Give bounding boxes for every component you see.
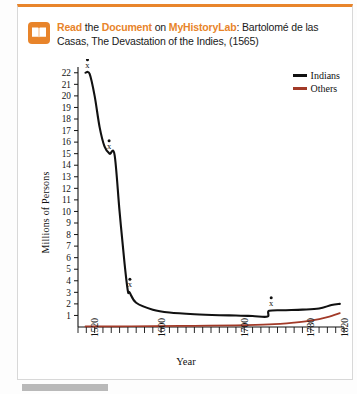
read-link[interactable]: Read [57, 21, 82, 33]
chart-area: Millions of Persons Year Indians Others … [18, 59, 354, 379]
y-tick-label: 20 [62, 91, 72, 101]
legend-item-indians: Indians [293, 69, 340, 82]
annotation-marker: x [85, 59, 90, 70]
y-tick-label: 22 [62, 68, 72, 78]
book-icon [28, 22, 50, 44]
x-tick-label: 1700 [240, 318, 250, 337]
myhistorylab-link[interactable]: MyHistoryLab [169, 21, 237, 33]
y-tick-label: 16 [62, 137, 72, 147]
y-tick-label: 11 [62, 195, 71, 205]
y-tick-label: 19 [62, 103, 72, 113]
y-tick-label: 18 [62, 114, 72, 124]
y-tick-label: 8 [66, 230, 71, 240]
chart-legend: Indians Others [293, 69, 340, 95]
y-tick-label: 4 [66, 276, 71, 286]
annotation-label: x [85, 60, 90, 70]
y-tick-label: 12 [62, 184, 72, 194]
legend-swatch-indians [293, 74, 307, 77]
y-tick-label: 15 [62, 149, 72, 159]
annotation-marker: x [269, 296, 274, 308]
y-tick-label: 5 [66, 264, 71, 274]
annotation-marker: x [107, 139, 112, 151]
legend-item-others: Others [293, 82, 340, 95]
y-tick-label: 6 [66, 253, 71, 263]
x-tick-label: 1780 [306, 318, 316, 337]
y-axis-label: Millions of Persons [40, 171, 51, 253]
the-label: the [82, 21, 102, 33]
screenshot-root: Read the Document on MyHistoryLab: Barto… [0, 0, 357, 394]
annotation-marker: x [128, 278, 133, 290]
document-link[interactable]: Document [102, 21, 152, 33]
y-tick-label: 14 [62, 160, 72, 170]
y-tick-label: 17 [62, 126, 72, 136]
series-line-indians [85, 72, 339, 317]
annotation-label: x [269, 298, 274, 308]
y-tick-label: 13 [62, 172, 72, 182]
annotation-label: x [128, 279, 133, 289]
legend-label-others: Others [311, 83, 338, 94]
figure-panel: Read the Document on MyHistoryLab: Barto… [17, 4, 353, 380]
annotation-label: x [107, 141, 112, 151]
y-tick-label: 21 [62, 80, 72, 90]
header-text: Read the Document on MyHistoryLab: Barto… [57, 21, 344, 48]
y-tick-label: 3 [66, 288, 71, 298]
on-label: on [152, 21, 169, 33]
y-tick-label: 9 [66, 218, 71, 228]
line-chart-svg: 12345678910111213141516171819202122xxxx [18, 59, 354, 359]
y-tick-label: 7 [66, 241, 71, 251]
legend-label-indians: Indians [311, 70, 340, 81]
x-axis-label: Year [18, 356, 354, 367]
y-tick-label: 2 [66, 299, 71, 309]
y-tick-label: 1 [66, 311, 71, 321]
y-tick-label: 10 [62, 207, 72, 217]
read-document-header[interactable]: Read the Document on MyHistoryLab: Barto… [28, 21, 344, 48]
x-tick-label: 1600 [157, 318, 167, 337]
legend-swatch-others [293, 87, 307, 90]
x-tick-label: 1520 [90, 318, 100, 337]
footer-gray-bar [22, 384, 108, 391]
x-tick-label: 1820 [340, 318, 350, 337]
